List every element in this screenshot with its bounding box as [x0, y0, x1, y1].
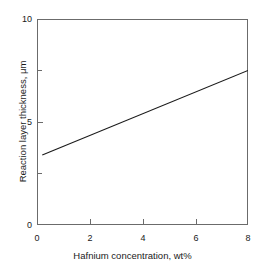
xtick-mark-4 — [143, 219, 144, 224]
ytick-label-10: 10 — [12, 15, 32, 24]
ytick-mark-2p5 — [38, 173, 42, 174]
xtick-label-0: 0 — [34, 234, 39, 243]
xtick-label-2: 2 — [87, 234, 92, 243]
ytick-mark-5 — [38, 122, 43, 123]
xtick-mark-2 — [90, 219, 91, 224]
data-series-line — [42, 71, 248, 155]
plot-line-layer — [37, 19, 248, 225]
xtick-label-8: 8 — [245, 234, 250, 243]
chart-figure: 0 5 10 0 2 4 6 8 Hafnium concentration, … — [0, 0, 265, 269]
xtick-mark-6 — [196, 219, 197, 224]
y-axis-title: Reaction layer thickness, μm — [17, 52, 28, 192]
ytick-label-0: 0 — [12, 221, 32, 230]
xtick-label-4: 4 — [140, 234, 145, 243]
ytick-mark-7p5 — [38, 70, 42, 71]
xtick-label-6: 6 — [193, 234, 198, 243]
x-axis-title: Hafnium concentration, wt% — [0, 250, 265, 261]
